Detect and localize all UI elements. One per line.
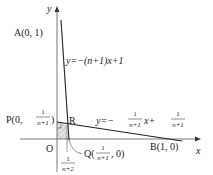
x-axis-arrow-icon [195, 137, 201, 142]
svg-text:n+1: n+1 [97, 154, 109, 162]
point-p-label: P(0, 1 n+1 ) [6, 108, 54, 127]
point-a-label: A(0, 1) [14, 27, 43, 39]
svg-text:n+1: n+1 [37, 119, 49, 127]
y-axis-label: y [46, 3, 52, 14]
q-leader-line [69, 140, 82, 154]
svg-text:n+2: n+2 [62, 165, 74, 173]
x-axis-label: x [195, 145, 201, 156]
line-1 [61, 20, 69, 140]
origin-label: O [46, 143, 53, 154]
svg-text:n+1: n+1 [172, 121, 184, 129]
svg-text:Q(: Q( [84, 148, 95, 160]
shaded-region [57, 122, 67, 139]
tick-label-r-x: 1 n+2 [61, 155, 75, 173]
svg-text:n+1: n+1 [129, 121, 141, 129]
svg-text:1: 1 [133, 110, 137, 118]
svg-text:y=−: y=− [95, 115, 114, 126]
line-2 [57, 122, 182, 141]
line-1-equation: y=−(n+1)x+1 [65, 55, 124, 67]
svg-text:1: 1 [66, 155, 70, 163]
svg-text:x+: x+ [143, 115, 155, 126]
point-b-label: B(1, 0) [150, 141, 178, 153]
line-2-equation: y=− 1 n+1 x+ 1 n+1 [95, 110, 185, 129]
svg-text:P(0,: P(0, [6, 114, 22, 126]
point-r-label: R [69, 115, 76, 126]
svg-text:1: 1 [176, 110, 180, 118]
y-axis-arrow-icon [55, 6, 60, 12]
svg-text:1: 1 [101, 144, 105, 152]
svg-text:, 0): , 0) [111, 148, 124, 160]
svg-text:1: 1 [41, 108, 45, 116]
coordinate-diagram: y x O A(0, 1) R B(1, 0) y=−(n+1)x+1 y=− … [0, 0, 213, 175]
point-q-label: Q( 1 n+1 , 0) [84, 144, 124, 162]
svg-text:): ) [51, 114, 54, 126]
